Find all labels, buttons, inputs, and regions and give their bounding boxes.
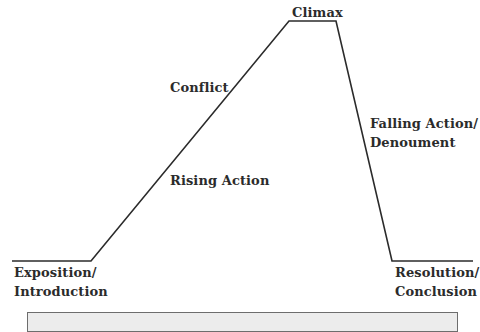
label-exposition: Exposition/ Introduction [14,263,108,301]
resolution-line2: Conclusion [395,282,479,301]
falling-action-line1: Falling Action/ [370,114,478,133]
label-conflict: Conflict [170,78,229,97]
label-resolution: Resolution/ Conclusion [395,263,479,301]
label-rising-action: Rising Action [170,171,269,190]
exposition-line2: Introduction [14,282,108,301]
label-falling-action: Falling Action/ Denoument [370,114,478,152]
label-climax: Climax [292,3,343,22]
falling-action-line2: Denoument [370,133,478,152]
exposition-line1: Exposition/ [14,263,108,282]
resolution-line1: Resolution/ [395,263,479,282]
caption-box [27,312,458,332]
